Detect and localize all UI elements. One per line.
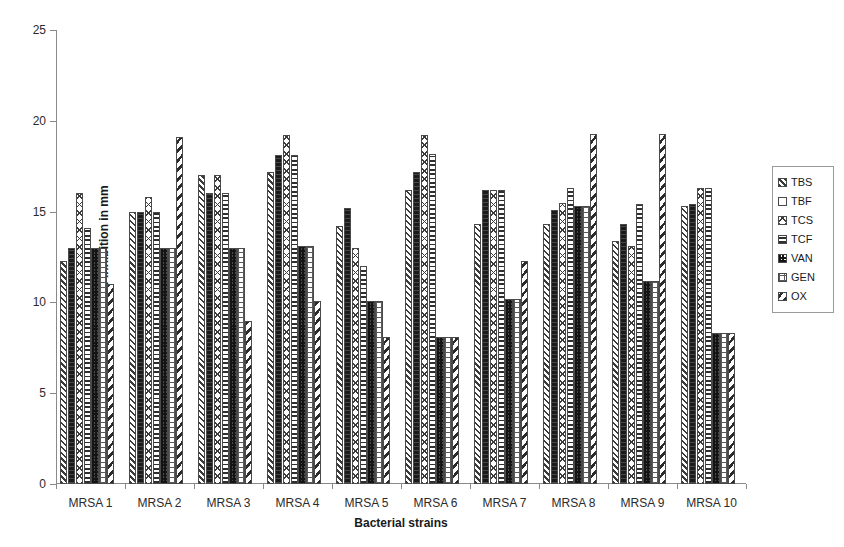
x-tick-label: MRSA 6: [413, 496, 457, 510]
legend-label: OX: [791, 291, 807, 302]
bar: [405, 190, 412, 484]
legend-swatch-icon: [778, 216, 787, 225]
x-tick-mark: [332, 484, 333, 489]
bar: [267, 172, 274, 484]
bar: [76, 193, 83, 484]
legend-swatch-icon: [778, 235, 787, 244]
x-tick-mark: [263, 484, 264, 489]
x-tick-mark: [401, 484, 402, 489]
bar: [421, 135, 428, 484]
bar: [444, 337, 451, 484]
bar: [153, 212, 160, 484]
x-tick-label: MRSA 7: [482, 496, 526, 510]
bar: [559, 203, 566, 484]
bar: [505, 299, 512, 484]
bar: [498, 190, 505, 484]
bar: [160, 248, 167, 484]
bar: [436, 337, 443, 484]
bar: [336, 226, 343, 484]
bar: [306, 246, 313, 484]
bar: [490, 190, 497, 484]
bar: [689, 204, 696, 484]
bar-group: [677, 30, 746, 484]
legend-swatch-icon: [778, 197, 787, 206]
bar: [84, 228, 91, 484]
legend-item-tcf: TCF: [778, 230, 829, 249]
bar: [360, 266, 367, 484]
x-tick-mark: [608, 484, 609, 489]
bar: [298, 246, 305, 484]
legend-swatch-icon: [778, 178, 787, 187]
bar-group: [125, 30, 194, 484]
plot-area: 0510152025 MRSA 1MRSA 2MRSA 3MRSA 4MRSA …: [56, 30, 746, 484]
legend-item-tcs: TCS: [778, 211, 829, 230]
bar: [107, 284, 114, 484]
bar: [283, 135, 290, 484]
y-tick-label: 20: [4, 114, 46, 128]
bar: [168, 248, 175, 484]
x-tick-label: MRSA 10: [686, 496, 737, 510]
bar-group: [401, 30, 470, 484]
x-tick-label: MRSA 5: [344, 496, 388, 510]
bar: [275, 155, 282, 484]
bar-chart: Zone of Inhibition in mm 0510152025 MRSA…: [0, 0, 844, 547]
bar: [99, 248, 106, 484]
bar: [429, 154, 436, 485]
bar: [291, 155, 298, 484]
legend-label: TBF: [791, 196, 812, 207]
bar: [636, 204, 643, 484]
bar: [712, 333, 719, 484]
bar: [643, 281, 650, 484]
x-tick-label: MRSA 4: [275, 496, 319, 510]
legend-swatch-icon: [778, 254, 787, 263]
bar-group: [470, 30, 539, 484]
y-tick-label: 0: [4, 477, 46, 491]
bar: [245, 321, 252, 484]
bar: [543, 224, 550, 484]
bar: [697, 188, 704, 484]
bar: [413, 172, 420, 484]
x-axis-title: Bacterial strains: [56, 516, 746, 530]
bar: [659, 134, 666, 484]
bar: [145, 197, 152, 484]
bar-group: [263, 30, 332, 484]
bar: [237, 248, 244, 484]
bar: [129, 212, 136, 484]
x-tick-mark: [470, 484, 471, 489]
bar: [567, 188, 574, 484]
bar: [367, 301, 374, 484]
bar: [720, 333, 727, 484]
bar: [60, 261, 67, 484]
bar: [91, 248, 98, 484]
bar: [482, 190, 489, 484]
bar-group: [539, 30, 608, 484]
x-tick-label: MRSA 9: [620, 496, 664, 510]
legend-label: TCF: [791, 234, 812, 245]
bar: [68, 248, 75, 484]
legend-label: TCS: [791, 215, 813, 226]
bar: [513, 299, 520, 484]
bar: [728, 333, 735, 484]
bar: [375, 301, 382, 484]
bar: [214, 175, 221, 484]
bar: [705, 188, 712, 484]
x-tick-label: MRSA 1: [68, 496, 112, 510]
bar: [383, 337, 390, 484]
x-tick-mark: [125, 484, 126, 489]
legend-label: VAN: [791, 253, 813, 264]
bar-group: [194, 30, 263, 484]
bar: [198, 175, 205, 484]
bar: [582, 206, 589, 484]
legend-item-tbf: TBF: [778, 192, 829, 211]
legend-swatch-icon: [778, 292, 787, 301]
bar: [452, 337, 459, 484]
y-tick-label: 5: [4, 386, 46, 400]
legend-item-ox: OX: [778, 287, 829, 306]
legend-item-van: VAN: [778, 249, 829, 268]
bar: [612, 241, 619, 484]
x-tick-mark: [194, 484, 195, 489]
legend-swatch-icon: [778, 273, 787, 282]
x-tick-label: MRSA 2: [137, 496, 181, 510]
bar: [521, 261, 528, 484]
bar: [681, 206, 688, 484]
